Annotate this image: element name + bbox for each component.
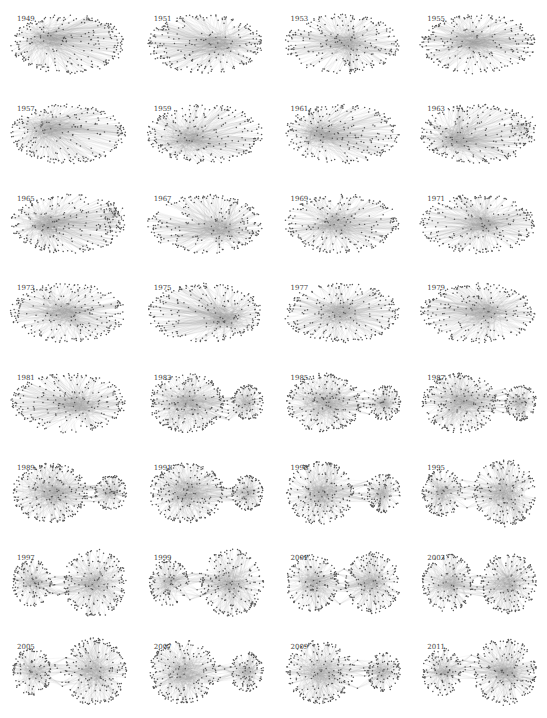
network-graph <box>0 449 137 539</box>
network-panel-1967: 1967 <box>137 180 274 270</box>
year-label: 1987 <box>427 374 445 382</box>
year-label: 1999 <box>154 554 172 562</box>
edges <box>285 14 398 73</box>
network-graph <box>137 0 274 90</box>
year-label: 1981 <box>17 374 35 382</box>
network-panel-2005: 2005 <box>0 628 137 718</box>
year-label: 1957 <box>17 105 35 113</box>
year-label: 1961 <box>291 105 309 113</box>
year-label: 1953 <box>291 15 309 23</box>
network-panel-1959: 1959 <box>137 90 274 180</box>
edges <box>420 15 535 74</box>
network-panel-1985: 1985 <box>274 359 411 449</box>
network-panel-1949: 1949 <box>0 0 137 90</box>
network-graph <box>274 269 411 359</box>
network-panel-1971: 1971 <box>410 180 547 270</box>
network-panel-2009: 2009 <box>274 628 411 718</box>
network-graph <box>137 449 274 539</box>
network-panel-1951: 1951 <box>137 0 274 90</box>
year-label: 1991 <box>154 464 172 472</box>
network-panel-2003: 2003 <box>410 539 547 629</box>
network-graph <box>137 180 274 270</box>
network-panel-1957: 1957 <box>0 90 137 180</box>
year-label: 2011 <box>427 643 445 651</box>
network-graph <box>410 539 547 629</box>
network-graph <box>410 628 547 718</box>
year-label: 2007 <box>154 643 172 651</box>
year-label: 1975 <box>154 284 172 292</box>
year-label: 1969 <box>291 195 309 203</box>
network-panel-2001: 2001 <box>274 539 411 629</box>
network-graph <box>137 90 274 180</box>
year-label: 1959 <box>154 105 172 113</box>
year-label: 1985 <box>291 374 309 382</box>
network-panel-1955: 1955 <box>410 0 547 90</box>
network-panel-1995: 1995 <box>410 449 547 539</box>
network-graph <box>274 90 411 180</box>
network-graph <box>0 90 137 180</box>
network-panel-1991: 1991 <box>137 449 274 539</box>
network-panel-1979: 1979 <box>410 269 547 359</box>
network-graph <box>410 90 547 180</box>
network-graph <box>0 359 137 449</box>
year-label: 2003 <box>427 554 445 562</box>
network-panel-1989: 1989 <box>0 449 137 539</box>
year-label: 1977 <box>291 284 309 292</box>
network-graph <box>274 539 411 629</box>
network-graph <box>274 449 411 539</box>
edges <box>423 554 537 613</box>
network-graph <box>0 269 137 359</box>
year-label: 1965 <box>17 195 35 203</box>
network-graph <box>410 0 547 90</box>
year-label: 1997 <box>17 554 35 562</box>
network-graph <box>410 449 547 539</box>
network-panel-1969: 1969 <box>274 180 411 270</box>
network-graph <box>410 359 547 449</box>
network-panel-1961: 1961 <box>274 90 411 180</box>
network-panel-1977: 1977 <box>274 269 411 359</box>
network-graph <box>137 628 274 718</box>
network-panel-1973: 1973 <box>0 269 137 359</box>
network-graph <box>137 269 274 359</box>
network-graph <box>137 359 274 449</box>
year-label: 1951 <box>154 15 172 23</box>
year-label: 1967 <box>154 195 172 203</box>
network-graph <box>274 359 411 449</box>
year-label: 2005 <box>17 643 35 651</box>
network-grid: 1949195119531955195719591961196319651967… <box>0 0 547 718</box>
network-panel-1975: 1975 <box>137 269 274 359</box>
edges <box>285 194 398 252</box>
year-label: 1993 <box>291 464 309 472</box>
network-graph <box>274 180 411 270</box>
year-label: 1971 <box>427 195 445 203</box>
network-panel-1965: 1965 <box>0 180 137 270</box>
network-panel-1963: 1963 <box>410 90 547 180</box>
network-panel-1953: 1953 <box>274 0 411 90</box>
network-panel-2011: 2011 <box>410 628 547 718</box>
year-label: 1963 <box>427 105 445 113</box>
network-panel-2007: 2007 <box>137 628 274 718</box>
year-label: 1983 <box>154 374 172 382</box>
network-graph <box>274 0 411 90</box>
network-graph <box>410 180 547 270</box>
network-panel-1997: 1997 <box>0 539 137 629</box>
year-label: 1949 <box>17 15 35 23</box>
year-label: 2001 <box>291 554 309 562</box>
edges <box>420 195 534 253</box>
nodes <box>147 104 263 164</box>
edges <box>11 104 125 163</box>
network-graph <box>137 539 274 629</box>
edges <box>286 104 399 163</box>
network-graph <box>274 628 411 718</box>
network-graph <box>0 180 137 270</box>
network-panel-1993: 1993 <box>274 449 411 539</box>
year-label: 1995 <box>427 464 445 472</box>
year-label: 1979 <box>427 284 445 292</box>
network-panel-1999: 1999 <box>137 539 274 629</box>
network-graph <box>0 628 137 718</box>
network-graph <box>410 269 547 359</box>
year-label: 1955 <box>427 15 445 23</box>
network-panel-1981: 1981 <box>0 359 137 449</box>
year-label: 1973 <box>17 284 35 292</box>
year-label: 1989 <box>17 464 35 472</box>
